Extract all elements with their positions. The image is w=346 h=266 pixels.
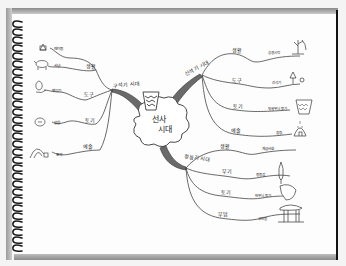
leaf-neolithic-3: 빗살무늬 토기 bbox=[268, 106, 287, 111]
leaf-bronze-3: 민무늬 토기 bbox=[255, 193, 271, 198]
node-paleolithic-art: 예술 bbox=[83, 143, 93, 150]
stone-tool-icon bbox=[36, 81, 46, 93]
node-bronze-weapons: 무기 bbox=[222, 168, 232, 175]
node-neolithic-art: 예술 bbox=[231, 127, 241, 134]
leaf-neolithic-2: 간석기 bbox=[272, 80, 281, 85]
comb-pottery-icon bbox=[296, 100, 312, 114]
branch-neolithic bbox=[202, 54, 300, 137]
leaf-neolithic-4: 움집 bbox=[276, 130, 282, 135]
leaf-paleolithic-1: 떼이동 bbox=[54, 46, 64, 51]
node-neolithic-pottery: 토기 bbox=[233, 103, 243, 110]
leaf-neolithic-1: 농경시작 bbox=[268, 50, 281, 55]
leaf-paleolithic-3: 뗀석기 bbox=[52, 88, 61, 93]
branch-label-bronze: 청동기 시대 bbox=[184, 153, 211, 164]
hut-icon bbox=[40, 44, 46, 50]
pot-icon bbox=[143, 92, 159, 110]
leaf-paleolithic-4: 없음 bbox=[54, 120, 61, 125]
leaf-bronze-1: 계급사회 bbox=[262, 146, 274, 151]
mind-map: 선사 시대 구석기 시대 생활 도구 토기 예술 떼이동 사냥 뗀석기 없음 조… bbox=[0, 0, 346, 266]
leaf-bronze-4: 고인돌 bbox=[258, 216, 268, 221]
node-paleolithic-life: 생활 bbox=[86, 63, 96, 70]
node-paleolithic-tools: 도구 bbox=[84, 91, 94, 98]
plant-icon bbox=[292, 40, 306, 54]
plain-pottery-icon bbox=[280, 185, 296, 200]
cave-icon bbox=[30, 149, 48, 158]
tool-icon bbox=[290, 72, 304, 84]
node-paleolithic-pottery: 토기 bbox=[85, 117, 95, 124]
node-neolithic-life: 생활 bbox=[232, 47, 242, 54]
fire-icon bbox=[35, 118, 45, 126]
node-neolithic-tools: 도구 bbox=[232, 77, 242, 84]
center-label-line1: 선사 bbox=[152, 115, 167, 124]
branch-label-paleolithic: 구석기 시대 bbox=[112, 79, 139, 90]
leaf-paleolithic-5: 조각 bbox=[56, 152, 63, 157]
dolmen-icon bbox=[278, 205, 304, 222]
center-label-line2: 시대 bbox=[158, 125, 172, 134]
dagger-icon bbox=[279, 162, 284, 184]
dwelling-icon bbox=[294, 121, 306, 136]
leaf-bronze-2: 청동검 bbox=[256, 172, 265, 177]
node-bronze-pottery: 토기 bbox=[221, 189, 231, 196]
spiral-binding bbox=[13, 21, 22, 251]
node-bronze-tomb: 무덤 bbox=[218, 211, 228, 218]
leaf-paleolithic-2: 사냥 bbox=[54, 63, 61, 68]
center-node: 선사 시대 bbox=[134, 92, 189, 147]
animal-icon bbox=[34, 61, 48, 71]
node-bronze-life: 생활 bbox=[220, 143, 230, 150]
